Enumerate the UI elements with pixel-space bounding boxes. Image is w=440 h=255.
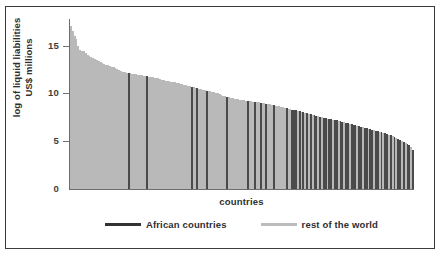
bar-series <box>70 22 413 189</box>
y-tick-label-15: 15 <box>48 41 59 51</box>
bar-185 <box>412 150 414 189</box>
y-axis-title-line1: log of liquid liabilities <box>11 18 22 118</box>
legend-item-rest-of-world: rest of the world <box>261 219 378 230</box>
legend-item-african-countries: African countries <box>105 219 227 230</box>
y-tick-label-0: 0 <box>54 184 59 194</box>
y-tick-5 <box>63 141 69 142</box>
y-tick-label-5: 5 <box>54 136 59 146</box>
y-tick-10 <box>63 93 69 94</box>
plot-area <box>70 22 413 189</box>
legend-line-icon-rest <box>261 223 297 225</box>
chart-legend: African countries rest of the world <box>70 219 413 230</box>
y-tick-15 <box>63 46 69 47</box>
legend-label-rest: rest of the world <box>302 219 378 230</box>
y-axis-title-line2: US$ millions <box>22 38 33 96</box>
x-axis-line <box>69 189 414 190</box>
y-axis-title: log of liquid liabilities US$ millions <box>11 13 34 123</box>
chart-figure: 15 10 5 0 log of liquid liabilities US$ … <box>0 0 440 255</box>
legend-line-icon-african <box>105 223 141 226</box>
y-tick-label-10: 10 <box>48 88 59 98</box>
legend-label-african: African countries <box>146 219 227 230</box>
x-axis-title: countries <box>70 196 413 207</box>
